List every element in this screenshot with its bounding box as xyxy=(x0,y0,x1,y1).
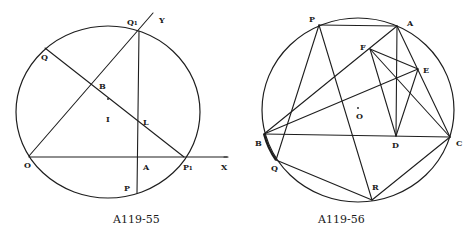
line-r-c xyxy=(372,137,450,200)
label-p1: P₁ xyxy=(183,162,193,172)
label-p: P xyxy=(309,14,315,24)
label-c: C xyxy=(456,138,462,148)
label-o: O xyxy=(356,111,363,121)
label-r: R xyxy=(372,182,379,192)
figure-a119-55: Q₁ Y Q B I L O A P₁ X P A119-55 xyxy=(16,13,228,226)
label-d: D xyxy=(392,140,399,150)
line-q-r xyxy=(276,160,372,200)
label-q1: Q₁ xyxy=(127,17,137,27)
label-y: Y xyxy=(158,15,165,25)
line-a-d xyxy=(396,26,397,136)
label-q: Q xyxy=(271,163,278,173)
line-q1-p xyxy=(137,31,139,193)
label-a: A xyxy=(142,162,150,172)
figure-a119-56: P A F E O B D C Q R A119-56 xyxy=(255,14,462,226)
label-p: P xyxy=(124,183,130,193)
point-o-dot xyxy=(357,107,359,109)
label-o: O xyxy=(24,160,31,170)
line-e-d xyxy=(396,69,418,136)
label-l: L xyxy=(143,117,149,127)
diagram-canvas: Q₁ Y Q B I L O A P₁ X P A119-55 P xyxy=(0,0,471,230)
point-i-dot xyxy=(107,98,109,100)
label-b: B xyxy=(255,138,262,148)
label-e: E xyxy=(423,65,429,75)
label-x: X xyxy=(221,162,228,172)
line-p-a xyxy=(319,25,397,26)
label-f: F xyxy=(360,42,366,52)
caption-a119-56: A119-56 xyxy=(317,213,365,226)
line-p-q xyxy=(276,25,319,160)
caption-a119-55: A119-55 xyxy=(112,213,160,226)
line-f-e xyxy=(370,49,418,69)
line-f-d xyxy=(370,49,396,136)
label-a: A xyxy=(406,18,414,28)
line-b-c xyxy=(264,134,450,137)
label-b: B xyxy=(99,81,106,91)
line-a-b xyxy=(264,26,397,134)
line-q-p1 xyxy=(45,48,184,157)
label-q: Q xyxy=(41,52,48,62)
label-i: I xyxy=(106,114,110,124)
line-e-b xyxy=(264,69,418,134)
